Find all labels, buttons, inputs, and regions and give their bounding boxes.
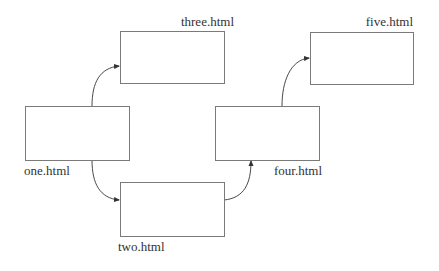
- node-one-box: [26, 107, 130, 161]
- node-four: four.html: [216, 107, 323, 179]
- node-three: three.html: [121, 14, 235, 84]
- edge-one-to-three: [92, 66, 119, 106]
- edge-four-to-five: [282, 58, 309, 106]
- node-one-label: one.html: [24, 163, 70, 178]
- node-three-box: [121, 32, 225, 84]
- node-four-label: four.html: [274, 163, 322, 178]
- node-five-box: [311, 33, 414, 85]
- node-three-label: three.html: [181, 14, 234, 29]
- node-five-label: five.html: [366, 14, 414, 29]
- node-five: five.html: [311, 14, 414, 85]
- node-one: one.html: [24, 107, 130, 179]
- node-two: two.html: [118, 183, 225, 255]
- node-four-box: [216, 107, 320, 161]
- edge-two-to-four: [224, 161, 251, 200]
- node-two-label: two.html: [118, 239, 165, 254]
- node-two-box: [121, 183, 225, 237]
- page-flow-diagram: three.html five.html one.html four.html …: [0, 0, 439, 271]
- edge-one-to-two: [92, 160, 119, 200]
